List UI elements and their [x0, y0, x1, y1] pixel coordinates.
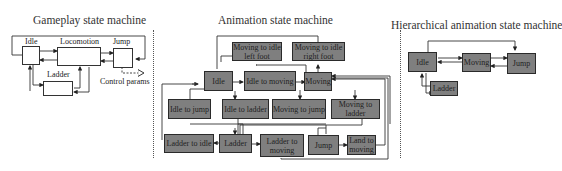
gameplay-locomotion-label: Locomotion: [60, 37, 99, 46]
anim-state-moving-to-idle-left-foot: Moving to idle left foot: [232, 42, 282, 61]
anim-state-ladder-to-moving: Ladder to moving: [260, 134, 304, 157]
hierarchical-title: Hierarchical animation state machine: [391, 19, 562, 31]
anim-state-moving-to-ladder: Moving to ladder: [331, 99, 380, 119]
hier-state-ladder: Ladder: [430, 81, 458, 96]
gameplay-jump-label: Jump: [113, 37, 130, 46]
anim-state-ladder-to-idle: Ladder to idle: [164, 134, 214, 153]
animation-title: Animation state machine: [218, 14, 333, 26]
gameplay-idle-label: Idle: [25, 37, 37, 46]
gameplay-title: Gameplay state machine: [33, 14, 146, 26]
anim-state-idle: Idle: [204, 71, 233, 91]
hier-state-jump: Jump: [507, 53, 536, 74]
gameplay-ladder-label: Ladder: [47, 70, 70, 79]
anim-state-land-to-moving: Land to moving: [347, 135, 376, 155]
gameplay-state-idle: [22, 46, 40, 65]
hier-state-idle: Idle: [408, 52, 437, 72]
anim-state-idle-to-ladder: Idle to ladder: [222, 99, 269, 119]
anim-state-moving-to-jump: Moving to jump: [272, 99, 326, 119]
anim-state-idle-to-moving: Idle to moving: [244, 71, 296, 91]
anim-state-jump: Jump: [308, 135, 339, 155]
anim-state-ladder: Ladder: [219, 134, 252, 153]
hier-state-moving: Moving: [462, 53, 491, 72]
anim-state-moving-to-idle-right-foot: Moving to idle right foot: [292, 42, 345, 61]
gameplay-state-ladder: [43, 81, 73, 96]
anim-state-moving: Moving: [304, 72, 332, 91]
gameplay-state-locomotion: [57, 47, 101, 66]
anim-state-idle-to-jump: Idle to jump: [168, 99, 211, 119]
gameplay-state-jump: [113, 48, 133, 68]
control-params-label: Control params: [100, 77, 150, 86]
